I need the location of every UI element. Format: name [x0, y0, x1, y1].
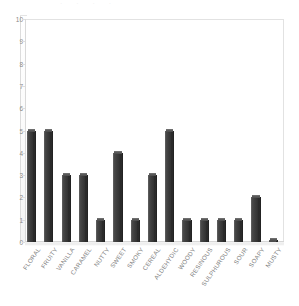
bar-top-face: [149, 173, 156, 176]
bar: [165, 131, 172, 243]
bar-column[interactable]: [200, 19, 207, 242]
y-axis-tick-label: 3: [9, 172, 23, 179]
bar-top-face: [201, 218, 208, 221]
y-axis-tick-label: 8: [9, 60, 23, 67]
bar-column[interactable]: [251, 19, 258, 242]
bar-column[interactable]: [165, 19, 172, 242]
bars-container: [25, 19, 284, 242]
bar-column[interactable]: [79, 19, 86, 242]
bar-side-face: [224, 220, 226, 242]
bar-column[interactable]: [234, 19, 241, 242]
y-axis-tick-label: 9: [9, 38, 23, 45]
bar-column[interactable]: [27, 19, 34, 242]
bar-column[interactable]: [148, 19, 155, 242]
bar: [113, 153, 120, 242]
bar-top-face: [270, 238, 277, 241]
bar-side-face: [86, 175, 88, 242]
x-axis-tick-label: MUSTY: [264, 246, 283, 269]
y-axis-tick-label: 7: [9, 82, 23, 89]
bar-top-face: [45, 129, 52, 132]
bar: [200, 220, 207, 242]
bar-top-face: [235, 218, 242, 221]
bar-side-face: [69, 175, 71, 242]
bar-top-face: [80, 173, 87, 176]
bar: [79, 175, 86, 242]
bar-side-face: [103, 220, 105, 242]
bar-side-face: [172, 131, 174, 243]
bar-side-face: [155, 175, 157, 242]
y-axis-tick-label: 2: [9, 194, 23, 201]
bar-top-face: [132, 218, 139, 221]
bar-top-face: [183, 218, 190, 221]
bar: [62, 175, 69, 242]
bar-top-face: [218, 218, 225, 221]
bar-side-face: [121, 153, 123, 242]
bar-column[interactable]: [217, 19, 224, 242]
x-axis-tick-label: FLORAL: [21, 246, 41, 271]
bar-column[interactable]: [44, 19, 51, 242]
y-axis-tick-label: 5: [9, 127, 23, 134]
x-axis-category-labels: FLORALFRUITYVANILLACARAMELNUTTYSWEETSMOK…: [25, 246, 284, 306]
bar: [234, 220, 241, 242]
bar-side-face: [259, 197, 261, 242]
bar-column[interactable]: [62, 19, 69, 242]
y-axis-tick-label: 4: [9, 149, 23, 156]
bar-top-face: [114, 151, 121, 154]
bar-side-face: [190, 220, 192, 242]
bar-side-face: [207, 220, 209, 242]
bar-chart: · · · · 012345678910 FLORALFRUITYVANILLA…: [0, 0, 299, 306]
bar-side-face: [241, 220, 243, 242]
bar-side-face: [138, 220, 140, 242]
bar-top-face: [28, 129, 35, 132]
bar: [217, 220, 224, 242]
bar: [96, 220, 103, 242]
bar-column[interactable]: [131, 19, 138, 242]
bar-column[interactable]: [182, 19, 189, 242]
x-axis-tick-label: SOUR: [232, 246, 249, 265]
clipped-title-remnant: · · · ·: [60, 0, 240, 7]
y-axis-tick-label: 1: [9, 216, 23, 223]
y-axis: 012345678910: [0, 0, 23, 306]
bar: [27, 131, 34, 243]
bar-top-face: [63, 173, 70, 176]
bar-top-face: [97, 218, 104, 221]
bar: [182, 220, 189, 242]
bar-column[interactable]: [113, 19, 120, 242]
x-axis-tick-label: SOAPY: [247, 246, 266, 269]
bar-top-face: [252, 195, 259, 198]
x-axis-tick-label: SWEET: [109, 246, 128, 269]
bar-column[interactable]: [96, 19, 103, 242]
bar-column[interactable]: [269, 19, 276, 242]
bar: [44, 131, 51, 243]
y-axis-tick-label: 0: [9, 239, 23, 246]
bar: [148, 175, 155, 242]
bar-top-face: [166, 129, 173, 132]
y-axis-tick-label: 6: [9, 105, 23, 112]
bar: [251, 197, 258, 242]
y-axis-tick-label: 10: [9, 16, 23, 23]
bar-side-face: [34, 131, 36, 243]
bar-side-face: [51, 131, 53, 243]
bar: [131, 220, 138, 242]
